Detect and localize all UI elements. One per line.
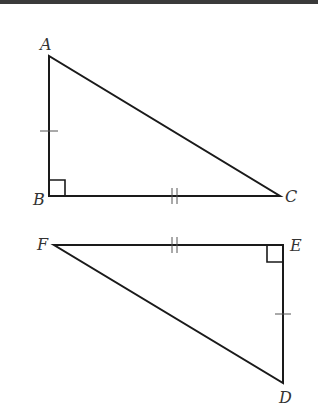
triangle-abc: A B C [32, 35, 297, 209]
triangle-abc-outline [49, 56, 280, 196]
vertex-label-a: A [38, 35, 52, 54]
vertex-label-d: D [278, 388, 292, 407]
right-angle-mark-b [49, 180, 65, 196]
right-angle-mark-e [267, 245, 283, 262]
vertex-label-e: E [289, 236, 302, 255]
vertex-label-c: C [285, 187, 297, 206]
vertex-label-f: F [36, 235, 49, 254]
triangle-def-outline [54, 245, 283, 383]
vertex-label-b: B [32, 190, 45, 209]
diagram-canvas: A B C F E D [0, 0, 318, 420]
triangle-def: F E D [36, 235, 302, 407]
